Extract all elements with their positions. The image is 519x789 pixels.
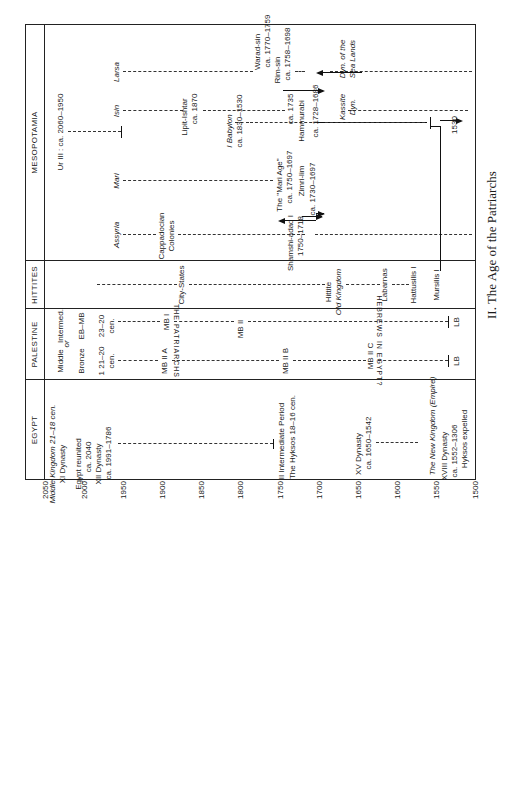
meso-larsa: Larsa [112, 62, 121, 82]
meso-shamshi-bar [283, 220, 316, 221]
meso-rim-sin: Rim-sin [273, 56, 282, 83]
chart-table [25, 24, 476, 480]
egypt-ii-intermediate: II Intermediate Period [277, 403, 286, 479]
year-tick: 1500 [471, 481, 480, 499]
meso-isin-span [123, 110, 183, 111]
meso-lipit-date: ca. 1870 [190, 94, 199, 125]
hittites-span-3 [346, 284, 380, 285]
palestine-span-a4 [378, 360, 448, 361]
palestine-span-a2 [172, 360, 279, 361]
meso-assyria-span-3 [315, 234, 472, 235]
divider-hittites-mesopotamia [25, 260, 476, 261]
mursilis-raid-end [430, 126, 441, 127]
meso-larsa-span [123, 71, 253, 72]
palestine-lb-2: LB [452, 317, 461, 327]
header-egypt: EGYPT [25, 380, 44, 480]
meso-zimri-dates: ca. 1730–1697 [308, 163, 317, 216]
palestine-lb-1: LB [452, 356, 461, 366]
arrow-down-icon [316, 214, 323, 220]
meso-kassite: Kassite [338, 94, 347, 120]
meso-colonies: Colonies [167, 220, 176, 251]
palestine-span-b2 [174, 321, 234, 322]
palestine-23-20: 23–20 [97, 315, 106, 337]
hittites-span-4 [392, 284, 409, 285]
meso-shamshi-adad: Shamshi-adad I [286, 215, 295, 271]
meso-isin-span-3 [348, 110, 468, 111]
palestine-i-21-20: 1 21–20 [97, 347, 106, 376]
header-divider [44, 24, 45, 480]
meso-mari-age: The "Mari Age" [275, 158, 284, 211]
year-tick: 1750 [276, 481, 285, 499]
hittites-city-states: City-States [177, 265, 186, 304]
year-tick: 1950 [119, 481, 128, 499]
hittites-span-1 [97, 284, 177, 285]
palestine-lb-tick-1 [448, 355, 449, 367]
meso-sea-lands-1: Dyn. of the [338, 40, 347, 79]
palestine-mb-ii-c: MB II C [366, 343, 375, 370]
hittites-old-kingdom: Old Kingdom [334, 269, 343, 315]
header-hittites: HITTITES [25, 261, 44, 309]
palestine-the-patriarchs: THE PATRIARCHS [172, 304, 181, 378]
palestine-span-b3 [248, 321, 448, 322]
palestine-middle: Middle [56, 349, 65, 373]
header-palestine: PALESTINE [25, 309, 44, 380]
hittites-mursilis: Mursilis I [432, 269, 441, 301]
meso-mari: Mari [112, 173, 121, 189]
egypt-xv-dates: ca. 1650–1542 [364, 417, 373, 470]
egypt-xviii-dynasty: XVIII Dynasty [440, 432, 449, 480]
egypt-xv-dynasty: XV Dynasty [354, 433, 363, 475]
hittites-labarnas: Labarnas [380, 268, 389, 301]
palestine-span-a1 [118, 360, 158, 361]
palestine-mb-ii-a: MB II A [160, 348, 169, 374]
egypt-xv-span [376, 442, 418, 443]
meso-babylon-dates: ca. 1830–1530 [235, 95, 244, 148]
meso-1530: 1530 [450, 116, 459, 134]
arrow-up-icon [316, 70, 323, 76]
mursilis-raid-line [440, 126, 441, 271]
meso-shamshi-dates: 1750–1718 [296, 216, 305, 256]
palestine-cen-2: cen. [107, 318, 116, 333]
egypt-hyksos-expelled: Hyksos expelled [460, 410, 469, 468]
meso-babylon-end-tick [430, 117, 431, 129]
arrow-up-icon [278, 218, 285, 224]
egypt-hyksos: The Hyksos 18–16 cen. [288, 395, 297, 479]
meso-ur-iii: Ur III : ca. 2060–1950 [56, 94, 65, 171]
meso-isin: Isin [112, 105, 121, 117]
meso-assyria: Assyria [112, 222, 121, 248]
meso-ca-1735: ca. 1735 [286, 94, 295, 125]
chart-caption: II. The Age of the Patriarchs [484, 171, 500, 319]
palestine-span-b1 [118, 321, 160, 322]
meso-rim-sin-dates: ca. 1758–1698 [283, 28, 292, 81]
year-tick: 1900 [158, 481, 167, 499]
meso-ur-end-tick [121, 126, 122, 138]
palestine-cen-1: cen. [107, 353, 116, 368]
meso-sea-lands-2: Sea Lands [348, 40, 357, 78]
palestine-intermed: Intermed. [56, 309, 65, 343]
year-tick: 1600 [393, 481, 402, 499]
egypt-xii-end-tick [273, 439, 274, 449]
meso-kassite-dyn: Dyn. [348, 99, 357, 115]
egypt-xii-span [118, 443, 273, 444]
rotated-chart-frame: EGYPT PALESTINE HITTITES MESOPOTAMIA 205… [0, 0, 519, 789]
egypt-xii-dynasty: XII Dynasty [94, 444, 103, 485]
meso-assyria-span-1 [123, 234, 156, 235]
palestine-span-a3 [293, 360, 366, 361]
egypt-xi-dynasty: XI Dynasty [58, 445, 67, 484]
palestine-hebrews-in-egypt: HEBREWS IN EGYPT? [375, 296, 384, 387]
meso-rim-sin-bar [283, 90, 323, 91]
meso-warad-sin: Warad-sin [253, 34, 262, 70]
hittites-hattusilis: Hattusilis I [409, 267, 418, 304]
divider-egypt-palestine [25, 379, 476, 380]
egypt-xii-dates: ca. 1991–1786 [104, 427, 113, 480]
year-tick: 1700 [315, 481, 324, 499]
year-tick: 1550 [432, 481, 441, 499]
palestine-bronze: Bronze [77, 348, 86, 373]
palestine-eb-mb: EB–MB [77, 312, 86, 339]
meso-larsa-span-2 [295, 71, 305, 72]
meso-lipit-ishtar: Lipit-Ishtar [180, 98, 189, 135]
meso-isin-span-2 [203, 110, 285, 111]
egypt-middle-kingdom: Middle Kingdom 21–18 cen. [48, 404, 57, 503]
year-tick: 1650 [354, 481, 363, 499]
divider-palestine-hittites [25, 308, 476, 309]
egypt-new-kingdom: The New Kingdom (Empire) [428, 377, 437, 476]
